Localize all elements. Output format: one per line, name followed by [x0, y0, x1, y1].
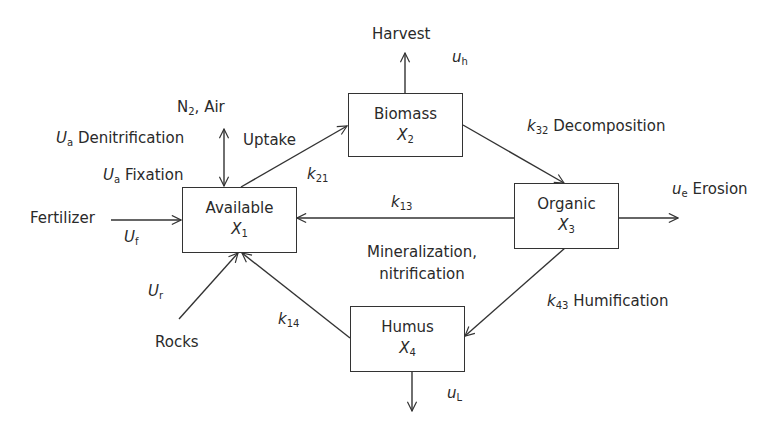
k13-label: k13: [391, 193, 412, 211]
node-humus: Humus X4: [350, 306, 465, 372]
node-organic-var: X3: [515, 215, 618, 236]
erosion-label: ue Erosion: [672, 180, 748, 198]
node-humus-var: X4: [351, 338, 464, 359]
fertilizer-label: Fertilizer: [30, 209, 95, 227]
fixation-label: Ua Fixation: [103, 166, 183, 184]
k21-label: k21: [307, 165, 328, 183]
mineralization-label: Mineralization, nitrification: [342, 241, 502, 285]
decomposition-label: k32 Decomposition: [527, 117, 665, 135]
ul-label: uL: [447, 384, 462, 402]
node-humus-name: Humus: [351, 317, 464, 338]
denitrification-label: Ua Denitrification: [56, 129, 184, 147]
rocks-label: Rocks: [155, 333, 199, 351]
uptake-label: Uptake: [243, 131, 296, 149]
n2-air-label: N2, Air: [177, 98, 225, 116]
node-available-var: X1: [183, 219, 296, 240]
rocks-arrow: [179, 253, 238, 319]
ur-label: Ur: [148, 282, 163, 300]
node-biomass-var: X2: [349, 125, 462, 146]
k14-label: k14: [278, 310, 299, 328]
uh-label: uh: [452, 48, 468, 66]
harvest-label: Harvest: [372, 25, 430, 43]
humification-label: k43 Humification: [547, 292, 668, 310]
node-available-name: Available: [183, 198, 296, 219]
uf-label: Uf: [124, 228, 139, 246]
node-biomass: Biomass X2: [348, 93, 463, 157]
node-organic: Organic X3: [514, 183, 619, 249]
node-organic-name: Organic: [515, 194, 618, 215]
node-available: Available X1: [182, 187, 297, 253]
node-biomass-name: Biomass: [349, 104, 462, 125]
